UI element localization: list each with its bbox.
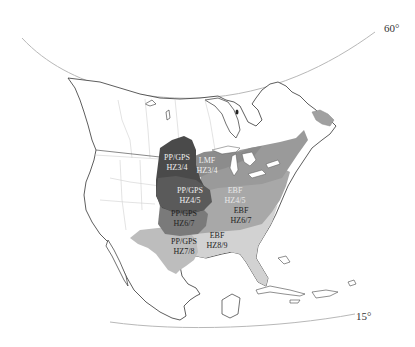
yucatan-peninsula	[222, 294, 240, 318]
zone-label-pp-gps-hz4-5: PP/GPS HZ4/5	[177, 186, 203, 205]
latitude-label-60: 60°	[384, 22, 399, 34]
svg-text:HZ3/4: HZ3/4	[167, 163, 188, 172]
svg-text:EBF: EBF	[210, 231, 225, 240]
latitude-label-15: 15°	[356, 310, 371, 322]
island-dot	[236, 110, 239, 115]
zone-label-pp-gps-hz6-7: PP/GPS HZ6/7	[171, 209, 197, 228]
zone-label-lmf-hz3-4: LMF HZ3/4	[197, 156, 218, 175]
svg-text:HZ4/5: HZ4/5	[180, 196, 201, 205]
svg-text:PP/GPS: PP/GPS	[177, 186, 203, 195]
zone-label-ebf-hz4-5: EBF HZ4/5	[225, 186, 246, 205]
svg-text:HZ8/9: HZ8/9	[207, 241, 228, 250]
zone-label-ebf-hz6-7: EBF HZ6/7	[231, 206, 252, 225]
svg-text:EBF: EBF	[228, 186, 243, 195]
svg-text:EBF: EBF	[234, 206, 249, 215]
svg-text:HZ3/4: HZ3/4	[197, 166, 218, 175]
caribbean-islands	[256, 256, 356, 303]
svg-text:HZ6/7: HZ6/7	[174, 219, 195, 228]
svg-text:LMF: LMF	[199, 156, 216, 165]
lake-athabasca	[166, 110, 170, 120]
svg-text:PP/GPS: PP/GPS	[171, 209, 197, 218]
svg-text:HZ4/5: HZ4/5	[225, 196, 246, 205]
svg-text:PP/GPS: PP/GPS	[164, 153, 190, 162]
svg-text:PP/GPS: PP/GPS	[171, 237, 197, 246]
zone-label-ebf-hz8-9: EBF HZ8/9	[207, 231, 228, 250]
zone-label-pp-gps-hz3-4: PP/GPS HZ3/4	[164, 153, 190, 172]
svg-text:HZ6/7: HZ6/7	[231, 216, 252, 225]
north-america-hardiness-map: 60° 15° PP/GPS HZ3/4 LMF HZ3/4 PP/GPS HZ…	[0, 0, 415, 347]
zone-label-pp-gps-hz7-8: PP/GPS HZ7/8	[171, 237, 197, 256]
svg-text:HZ7/8: HZ7/8	[174, 247, 195, 256]
